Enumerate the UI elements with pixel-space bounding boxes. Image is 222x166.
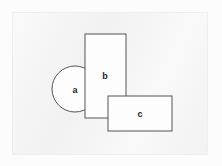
shape-label-c: c [137,110,142,119]
shape-label-b: b [102,72,108,81]
shapes-group [52,34,172,131]
shape-label-a: a [72,86,77,95]
diagram-figure: abc [0,0,222,166]
shape-canvas [0,0,222,166]
